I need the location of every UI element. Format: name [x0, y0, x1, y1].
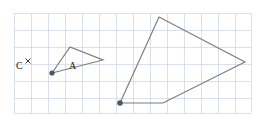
- shape-a-label-text: A: [69, 60, 76, 71]
- point-c-label: C: [16, 55, 23, 73]
- figure-canvas: C A: [0, 0, 260, 125]
- figure-background: [0, 0, 260, 125]
- figure-page: C A: [0, 0, 260, 125]
- dot-shape-a-image: [117, 100, 123, 106]
- dot-shape-a: [49, 70, 54, 75]
- point-c-label-text: C: [16, 60, 23, 71]
- shape-a-label: A: [69, 55, 76, 73]
- geometry-figure: [0, 0, 260, 125]
